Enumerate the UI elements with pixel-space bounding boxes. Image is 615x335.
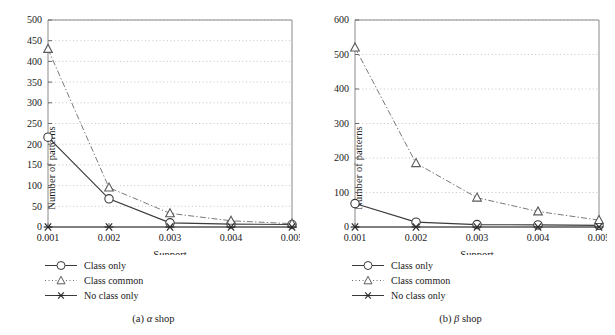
svg-text:0.003: 0.003 (159, 232, 182, 243)
svg-text:300: 300 (334, 118, 349, 129)
asterisk-marker-icon (44, 289, 78, 302)
panel-caption-a: (a) α shop (0, 313, 307, 324)
figure-container: Number of patterns 050100150200250300350… (0, 0, 615, 335)
svg-text:200: 200 (27, 139, 42, 150)
triangle-marker-icon (44, 274, 78, 287)
legend-item-no-class-only-b[interactable]: No class only (351, 288, 450, 303)
legend-item-class-only-a[interactable]: Class only (44, 258, 143, 273)
circle-marker-icon (44, 259, 78, 272)
plot-area-a: 0501001502002503003504004505000.0010.002… (0, 0, 300, 255)
legend-label: Class only (391, 260, 433, 271)
legend-a: Class only Class common No (44, 258, 143, 303)
svg-text:0.005: 0.005 (281, 232, 300, 243)
legend-label: Class only (84, 260, 126, 271)
svg-text:0.003: 0.003 (466, 232, 489, 243)
legend-label: Class common (391, 275, 450, 286)
svg-text:100: 100 (27, 180, 42, 191)
svg-text:Support: Support (153, 249, 186, 255)
caption-suffix: shop (462, 313, 482, 324)
svg-text:100: 100 (334, 187, 349, 198)
legend-item-class-common-a[interactable]: Class common (44, 273, 143, 288)
svg-text:0: 0 (344, 221, 349, 232)
chart-panel-a: Number of patterns 050100150200250300350… (0, 0, 307, 335)
svg-text:400: 400 (334, 83, 349, 94)
legend-label: Class common (84, 275, 143, 286)
triangle-marker-icon (351, 274, 385, 287)
caption-symbol: β (454, 313, 459, 324)
caption-symbol: α (147, 313, 153, 324)
svg-text:0.002: 0.002 (405, 232, 428, 243)
legend-b: Class only Class common No (351, 258, 450, 303)
legend-label: No class only (84, 290, 138, 301)
svg-text:350: 350 (27, 77, 42, 88)
caption-prefix: (b) (439, 313, 451, 324)
svg-text:500: 500 (27, 14, 42, 25)
panel-caption-b: (b) β shop (307, 313, 614, 324)
svg-text:0.001: 0.001 (344, 232, 367, 243)
plot-svg-b: 01002003004005006000.0010.0020.0030.0040… (307, 0, 607, 255)
svg-text:0.001: 0.001 (37, 232, 60, 243)
svg-text:0.005: 0.005 (588, 232, 607, 243)
legend-item-class-only-b[interactable]: Class only (351, 258, 450, 273)
plot-area-b: 01002003004005006000.0010.0020.0030.0040… (307, 0, 607, 255)
caption-prefix: (a) (132, 313, 144, 324)
svg-text:600: 600 (334, 14, 349, 25)
svg-text:0.004: 0.004 (527, 232, 550, 243)
asterisk-marker-icon (351, 289, 385, 302)
legend-item-no-class-only-a[interactable]: No class only (44, 288, 143, 303)
svg-text:50: 50 (32, 201, 42, 212)
svg-text:200: 200 (334, 152, 349, 163)
svg-text:0.004: 0.004 (220, 232, 243, 243)
svg-text:0.002: 0.002 (98, 232, 121, 243)
legend-label: No class only (391, 290, 445, 301)
svg-text:400: 400 (27, 56, 42, 67)
chart-panel-b: Number of patterns 01002003004005006000.… (307, 0, 614, 335)
svg-text:Support: Support (460, 249, 493, 255)
svg-text:250: 250 (27, 118, 42, 129)
svg-text:150: 150 (27, 159, 42, 170)
svg-text:450: 450 (27, 35, 42, 46)
svg-text:0: 0 (37, 221, 42, 232)
plot-svg-a: 0501001502002503003504004505000.0010.002… (0, 0, 300, 255)
svg-text:300: 300 (27, 97, 42, 108)
caption-suffix: shop (155, 313, 175, 324)
svg-text:500: 500 (334, 49, 349, 60)
circle-marker-icon (351, 259, 385, 272)
legend-item-class-common-b[interactable]: Class common (351, 273, 450, 288)
